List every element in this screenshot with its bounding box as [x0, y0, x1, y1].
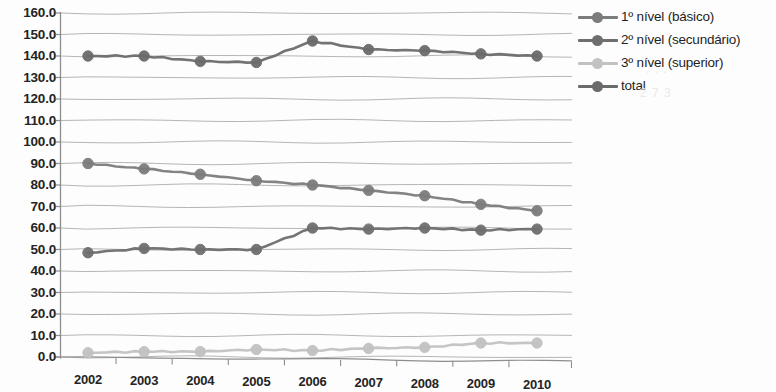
x-axis-tick-label: 2003 — [130, 374, 158, 387]
x-axis-tick-label: 2009 — [467, 377, 495, 390]
x-axis-tick-label: 2005 — [242, 375, 270, 388]
scan-artifact: 2 7 3 — [640, 86, 672, 100]
legend-item[interactable]: 1º nível (básico) — [578, 6, 776, 28]
line-marker-icon — [578, 79, 618, 93]
line-chart: 160.0150.0140.0130.0120.0110.0100.090.08… — [0, 0, 776, 392]
x-axis-tick-label: 2008 — [411, 377, 439, 390]
legend-marker-swatch — [592, 35, 603, 46]
legend-item[interactable]: 2º nível (secundário) — [578, 29, 776, 51]
legend-item[interactable]: 3º nível (superior) — [578, 52, 776, 74]
legend-marker-swatch — [592, 58, 603, 69]
x-axis-tick-labels: 200220032004200520062007200820092010 — [0, 0, 576, 392]
line-marker-icon — [578, 33, 618, 47]
x-axis-tick-label: 2007 — [355, 376, 383, 389]
legend-marker-swatch — [592, 12, 603, 23]
legend-item[interactable]: total — [578, 75, 776, 97]
chart-legend: 1º nível (básico)2º nível (secundário)3º… — [578, 6, 776, 98]
x-axis-tick-label: 2006 — [298, 375, 326, 388]
line-marker-icon — [578, 10, 618, 24]
x-axis-tick-label: 2010 — [523, 378, 551, 391]
x-axis-tick-label: 2004 — [186, 374, 214, 387]
x-axis-tick-label: 2002 — [74, 373, 102, 386]
legend-item-label: 3º nível (superior) — [621, 56, 723, 70]
legend-item-label: 2º nível (secundário) — [621, 33, 740, 47]
line-marker-icon — [578, 56, 618, 70]
legend-item-label: 1º nível (básico) — [621, 10, 714, 24]
legend-marker-swatch — [592, 81, 603, 92]
scan-artifact: . . . — [646, 62, 668, 76]
plot-area: 160.0150.0140.0130.0120.0110.0100.090.08… — [0, 0, 576, 392]
